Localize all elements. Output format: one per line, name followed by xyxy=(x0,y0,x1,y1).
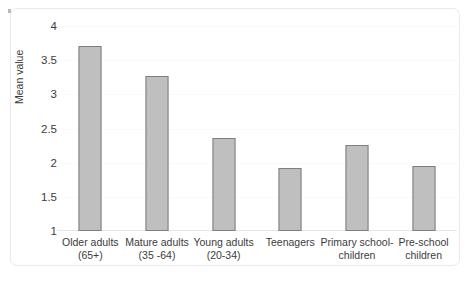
x-label-line1: Older adults xyxy=(62,236,119,248)
y-tick-1p5: 1.5 xyxy=(17,191,57,203)
bar-mature-adults xyxy=(145,76,168,231)
x-label-line1: Primary school- xyxy=(321,236,394,248)
x-label-pre-school-children: Pre-school children xyxy=(386,236,462,262)
y-tick-2: 2 xyxy=(17,157,57,169)
x-label-mature-adults: Mature adults (35 -64) xyxy=(119,236,195,262)
y-tick-3: 3 xyxy=(17,88,57,100)
bar-slot-1 xyxy=(124,26,191,231)
scan-artifact-mark xyxy=(8,9,11,13)
x-label-line1: Teenagers xyxy=(266,236,315,248)
plot-area xyxy=(57,26,457,231)
x-label-line1: Mature adults xyxy=(125,236,189,248)
x-label-line2: (65+) xyxy=(52,249,128,262)
bar-slot-3 xyxy=(257,26,324,231)
x-label-line1: Pre-school xyxy=(398,236,448,248)
bar-slot-0 xyxy=(57,26,124,231)
bar-teenagers xyxy=(279,168,302,231)
y-tick-1: 1 xyxy=(17,225,57,237)
x-label-line2: children xyxy=(386,249,462,262)
bar-series xyxy=(57,26,457,231)
x-axis-category-labels: Older adults (65+) Mature adults (35 -64… xyxy=(57,236,457,276)
x-label-line2: (35 -64) xyxy=(119,249,195,262)
x-label-line2: children xyxy=(319,249,395,262)
x-label-line1: Young adults xyxy=(193,236,253,248)
bar-chart-figure: Mean value xyxy=(0,0,475,281)
x-label-line2: (20-34) xyxy=(186,249,262,262)
bar-pre-school-children xyxy=(412,166,435,231)
x-label-young-adults: Young adults (20-34) xyxy=(186,236,262,262)
bar-young-adults xyxy=(212,138,235,231)
x-label-teenagers: Teenagers xyxy=(252,236,328,249)
bar-slot-4 xyxy=(324,26,391,231)
y-tick-3p5: 3.5 xyxy=(17,54,57,66)
bar-slot-5 xyxy=(390,26,457,231)
bar-slot-2 xyxy=(190,26,257,231)
y-tick-4: 4 xyxy=(17,20,57,32)
y-tick-2p5: 2.5 xyxy=(17,123,57,135)
bar-primary-school-children xyxy=(345,145,368,231)
bar-older-adults xyxy=(79,46,102,231)
x-label-older-adults: Older adults (65+) xyxy=(52,236,128,262)
x-label-primary-school-children: Primary school- children xyxy=(319,236,395,262)
